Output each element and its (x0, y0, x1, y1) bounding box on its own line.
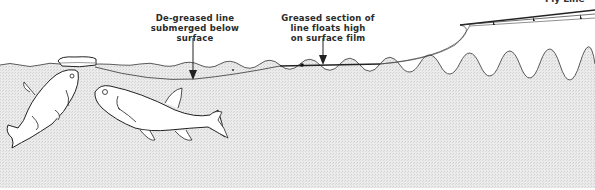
fishing-diagram: De-greased line submerged below surface … (0, 0, 595, 190)
clipped-title: Fly Line (545, 0, 585, 4)
label-line: De-greased line (140, 13, 250, 23)
floating-crust-bait (58, 57, 96, 67)
label-degreased-line: De-greased line submerged below surface (140, 13, 250, 43)
line-knot (300, 63, 304, 67)
fishing-rod (460, 10, 595, 26)
label-line: submerged below (140, 23, 250, 33)
label-greased-section: Greased section of line floats high on s… (273, 13, 383, 43)
water-body (0, 47, 595, 188)
fishing-line-floating (280, 64, 380, 66)
label-line: surface (140, 33, 250, 43)
label-line: Greased section of (273, 13, 383, 23)
label-line: on surface film (273, 33, 383, 43)
label-line: line floats high (273, 23, 383, 33)
